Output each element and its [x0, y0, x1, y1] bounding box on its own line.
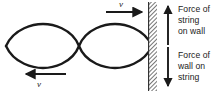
force-string-on-wall-line-1: Force of: [178, 4, 210, 15]
force-string-on-wall-label: Force of string on wall: [178, 4, 210, 38]
force-string-on-wall-line-2: string: [178, 15, 210, 26]
standing-wave-figure: Force of string on wall Force of wall on…: [0, 0, 223, 93]
force-string-on-wall-line-3: on wall: [178, 26, 210, 37]
wall: [148, 2, 157, 91]
standing-wave-upper-envelope: [6, 24, 152, 46]
velocity-top-label: v: [119, 0, 123, 9]
force-wall-on-string-line-1: Force of: [178, 50, 210, 61]
force-wall-on-string-label: Force of wall on string: [178, 50, 210, 84]
standing-wave-lower-envelope: [6, 46, 152, 68]
force-wall-on-string-line-2: wall on: [178, 61, 210, 72]
velocity-bottom-label: v: [37, 79, 41, 89]
force-wall-on-string-line-3: string: [178, 72, 210, 83]
